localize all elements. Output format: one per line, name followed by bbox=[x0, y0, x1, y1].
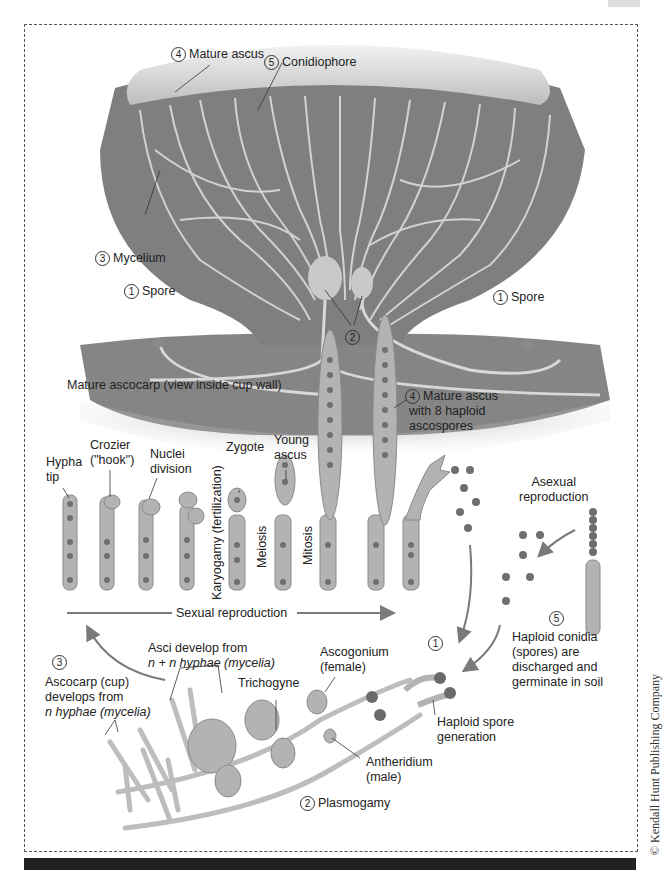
label-haploid-spore-generation: Haploid sporegeneration bbox=[437, 715, 514, 745]
label-meiosis: Meiosis bbox=[255, 526, 269, 568]
label-mycelium: 3Mycelium bbox=[95, 251, 166, 266]
label-5-conidia-num: 5 bbox=[549, 611, 567, 626]
label-crozier: Crozier("hook") bbox=[90, 438, 134, 468]
label-spore-right: 1Spore bbox=[493, 290, 544, 305]
label-young-ascus: Youngascus bbox=[274, 433, 309, 463]
label-mature-ascus-8-spores: 4Mature ascuswith 8 haploidascospores bbox=[405, 389, 498, 434]
label-3-ascocarp-num: 3 bbox=[52, 655, 70, 670]
label-plasmogamy: 2Plasmogamy bbox=[300, 796, 390, 811]
label-mitosis: Mitosis bbox=[301, 526, 315, 565]
label-hypha-tip: Hyphatip bbox=[46, 455, 82, 485]
label-asci-develop: Asci develop fromn + n hyphae (mycelia) bbox=[148, 641, 275, 671]
label-asexual-reproduction: Asexualreproduction bbox=[519, 475, 589, 505]
label-ascocarp-develops: Ascocarp (cup)develops fromn hyphae (myc… bbox=[45, 675, 151, 720]
label-spore-left: 1Spore bbox=[124, 284, 175, 299]
label-nuclei-division: Nucleidivision bbox=[150, 447, 192, 477]
label-mature-ascus-top: 4Mature ascus bbox=[171, 47, 264, 62]
label-karyogamy: Karyogamy (fertilization) bbox=[210, 465, 224, 600]
label-ascogonium: Ascogonium(female) bbox=[320, 645, 389, 675]
germinating-spores bbox=[405, 672, 456, 715]
label-1-germination-num: 1 bbox=[428, 636, 446, 651]
label-antheridium: Antheridium(male) bbox=[366, 755, 433, 785]
caption-mature-ascocarp: Mature ascocarp (view inside cup wall) bbox=[67, 378, 282, 393]
label-conidiophore: 5Conidiophore bbox=[264, 55, 356, 70]
label-haploid-conidia: Haploid conidia(spores) aredischarged an… bbox=[512, 630, 603, 690]
soil bbox=[80, 334, 610, 460]
label-trichogyne: Trichogyne bbox=[238, 676, 299, 691]
label-2-top: 2 bbox=[345, 330, 363, 345]
label-zygote: Zygote bbox=[226, 440, 264, 455]
label-sexual-reproduction: Sexual reproduction bbox=[176, 606, 287, 621]
